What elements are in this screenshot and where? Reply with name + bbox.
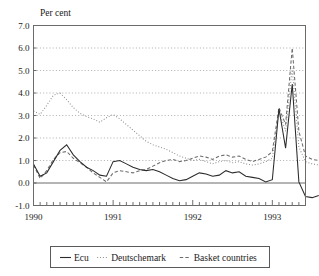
- y-tick-label: 6.0: [18, 43, 30, 53]
- legend-label: Basket countries: [194, 253, 257, 263]
- legend-label: Ecu: [74, 253, 89, 263]
- y-tick-label: 1.0: [18, 156, 30, 166]
- chart-figure: Per cent 7.06.05.04.03.02.01.00.0-1.0 19…: [0, 0, 319, 276]
- legend-label: Deutschemark: [111, 253, 166, 263]
- y-axis-title: Per cent: [40, 8, 71, 18]
- x-tick-label: 1992: [184, 212, 202, 222]
- x-tick-label: 1993: [263, 212, 282, 222]
- exchange-rate-line-chart: Per cent 7.06.05.04.03.02.01.00.0-1.0 19…: [0, 0, 319, 276]
- y-tick-label: 5.0: [18, 66, 30, 76]
- y-tick-label: 0.0: [18, 178, 30, 188]
- y-tick-label: -1.0: [15, 201, 30, 211]
- y-tick-label: 3.0: [18, 111, 30, 121]
- x-tick-label: 1991: [104, 212, 122, 222]
- chart-legend: EcuDeutschemarkBasket countries: [51, 247, 270, 268]
- x-tick-label: 1990: [25, 212, 44, 222]
- y-tick-label: 4.0: [18, 88, 30, 98]
- y-tick-label: 2.0: [18, 133, 30, 143]
- y-tick-label: 7.0: [18, 21, 30, 31]
- y-tick-label-group: 7.06.05.04.03.02.01.00.0-1.0: [15, 21, 30, 211]
